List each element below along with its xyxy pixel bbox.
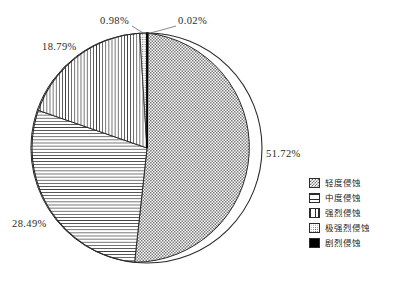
legend-item-light-erosion: 轻度侵蚀 bbox=[309, 176, 393, 190]
pie-label-very-intense-erosion: 0.98% bbox=[100, 16, 129, 27]
legend-item-very-intense-erosion: 极强烈侵蚀 bbox=[309, 221, 393, 235]
pie-label-severe-erosion: 0.02% bbox=[178, 16, 207, 27]
pie-slice-light-erosion bbox=[135, 33, 250, 262]
pie-chart: 0.98% 0.02% 18.79% 28.49% 51.72% 轻度侵蚀 中度… bbox=[0, 0, 393, 282]
pie-label-intense-erosion: 18.79% bbox=[42, 42, 77, 53]
pie-label-light-erosion: 51.72% bbox=[266, 149, 301, 160]
legend-swatch-stipple-icon bbox=[309, 223, 320, 233]
legend-label-moderate-erosion: 中度侵蚀 bbox=[325, 194, 361, 203]
pie-slice-severe-erosion bbox=[147, 33, 148, 148]
legend-label-light-erosion: 轻度侵蚀 bbox=[325, 179, 361, 188]
legend-swatch-solid-black-icon bbox=[309, 238, 320, 248]
legend-item-severe-erosion: 剧烈侵蚀 bbox=[309, 236, 393, 250]
leader-line-severe bbox=[150, 26, 176, 33]
pie-label-moderate-erosion: 28.49% bbox=[12, 219, 47, 230]
leader-line-very-intense bbox=[132, 26, 144, 33]
legend-label-severe-erosion: 剧烈侵蚀 bbox=[325, 239, 361, 248]
legend-swatch-vertical-lines-icon bbox=[309, 208, 320, 218]
chart-legend: 轻度侵蚀 中度侵蚀 强烈侵蚀 极强烈侵蚀 剧烈侵蚀 bbox=[309, 176, 393, 251]
legend-swatch-horizontal-lines-icon bbox=[309, 193, 320, 203]
legend-label-very-intense-erosion: 极强烈侵蚀 bbox=[325, 224, 370, 233]
legend-item-intense-erosion: 强烈侵蚀 bbox=[309, 206, 393, 220]
legend-swatch-checkerboard-icon bbox=[309, 178, 320, 188]
legend-label-intense-erosion: 强烈侵蚀 bbox=[325, 209, 361, 218]
legend-item-moderate-erosion: 中度侵蚀 bbox=[309, 191, 393, 205]
